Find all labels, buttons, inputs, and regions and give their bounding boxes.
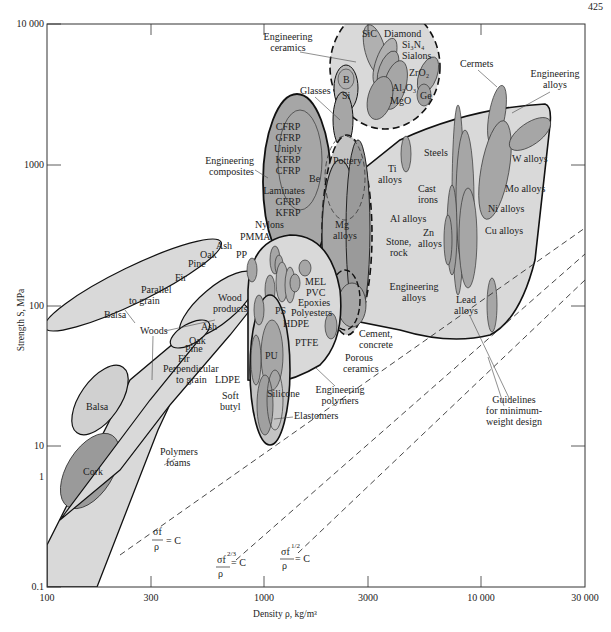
label-eq1-rhs: = C	[166, 535, 181, 546]
x-tick-100: 100	[40, 592, 55, 603]
label-eng-ceramics-2: ceramics	[270, 42, 306, 53]
ti-alloys-bubble	[401, 136, 411, 172]
pp-bubble	[247, 258, 257, 282]
label-eq1-den: ρ	[154, 541, 159, 552]
label-be: Be	[309, 173, 321, 184]
label-eq3-rhs: = C	[295, 553, 310, 564]
ldpe-bubble	[251, 335, 261, 385]
label-eng-ceramics-1: Engineering	[264, 31, 313, 42]
label-wood-products-2: products	[213, 303, 248, 314]
label-soft-butyl-1: Soft	[222, 390, 239, 401]
label-cast-irons-2: irons	[418, 194, 438, 205]
label-balsa-perp: Balsa	[86, 401, 109, 412]
label-zn-alloys-1: Zn	[423, 227, 434, 238]
label-pu: PU	[265, 350, 279, 361]
label-diamond: Diamond	[384, 28, 421, 39]
label-cement-1: Cement,	[359, 328, 393, 339]
label-guidelines-2: for minimum-	[486, 405, 542, 416]
label-guidelines-1: Guidelines	[492, 394, 535, 405]
label-wood-ash: Ash	[216, 240, 232, 251]
label-cast-irons-1: Cast	[418, 183, 436, 194]
label-mg-alloys-1: Mg	[335, 219, 349, 230]
label-eng-composites-1: Engineering	[205, 155, 254, 166]
label-eng-composites-2: composites	[209, 166, 254, 177]
label-cork: Cork	[83, 466, 103, 477]
label-stone-2: rock	[390, 247, 408, 258]
label-parallel-2: to grain	[129, 295, 160, 306]
label-polymer-foams-1: Polymers	[160, 446, 198, 457]
label-mel: MEL	[305, 276, 326, 287]
x-tick-3000: 3000	[358, 592, 378, 603]
label-ldpe: LDPE	[215, 374, 240, 385]
label-cfrp: CFRP	[276, 121, 301, 132]
x-tick-1000: 1000	[254, 592, 274, 603]
label-ptfe: PTFE	[295, 337, 318, 348]
label-pottery: Pottery	[333, 155, 362, 166]
label-gfrp: GFRP	[275, 132, 300, 143]
page-number: 425	[588, 1, 603, 12]
label-si: Si	[342, 90, 351, 101]
label-perpendicular-1: Perpendicular	[163, 363, 219, 374]
label-silicone: Silicone	[267, 388, 300, 399]
hdpe-bubble	[254, 295, 264, 325]
y-tick-10: 10	[34, 440, 44, 451]
y-tick-10000: 10 000	[17, 18, 45, 29]
label-eq3-den: ρ	[282, 560, 287, 571]
label-ge: Ge	[420, 90, 432, 101]
label-ps: PS	[275, 305, 286, 316]
label-pmma: PMMA	[240, 231, 271, 242]
label-wood-fir: Fir	[175, 272, 187, 283]
label-eng-alloys-mid-2: alloys	[402, 292, 426, 303]
y-tick-0-1: 0.1	[32, 581, 45, 592]
label-nylons: Nylons	[255, 219, 284, 230]
label-uniply: Uniply	[274, 143, 302, 154]
label-mg-alloys-2: alloys	[333, 230, 357, 241]
zn-alloys-bubble	[444, 215, 452, 265]
label-laminates-kfrp: KFRP	[275, 207, 300, 218]
y-tick-1000: 1000	[24, 159, 44, 170]
label-w-alloys: W alloys	[512, 153, 548, 164]
label-hdpe: HDPE	[283, 318, 309, 329]
label-cfrp-2: CFRP	[276, 165, 301, 176]
label-eng-alloys-top-1: Engineering	[531, 68, 580, 79]
mel-bubble	[299, 260, 311, 276]
label-eq3-num: σf	[281, 546, 290, 557]
x-tick-30000: 30 000	[571, 592, 599, 603]
cu-alloys-bubble	[459, 188, 477, 288]
cement-bubble	[338, 283, 366, 327]
label-glasses: Glasses	[300, 85, 331, 96]
label-wood-pine: Pine	[188, 258, 206, 269]
label-sic: SiC	[362, 28, 377, 39]
label-laminates-gfrp: GFRP	[275, 196, 300, 207]
label-ti-alloys-2: alloys	[378, 174, 402, 185]
label-guidelines-3: weight design	[486, 416, 542, 427]
label-eq3-exp: 1/2	[291, 542, 300, 550]
label-al-alloys: Al alloys	[390, 213, 426, 224]
label-ti-alloys-1: Ti	[388, 163, 397, 174]
label-cu-alloys: Cu alloys	[485, 225, 523, 236]
label-sialons: Sialons	[402, 50, 432, 61]
label-cermets: Cermets	[460, 58, 493, 69]
label-eq2-den: ρ	[218, 568, 223, 579]
label-eng-polymers-1: Engineering	[316, 384, 365, 395]
lead-alloys-bubble	[487, 278, 497, 332]
label-eq2-rhs: = C	[231, 557, 246, 568]
label-mgo: MgO	[390, 95, 411, 106]
polyesters-bubble	[290, 274, 300, 292]
label-si3n4: Si₃N₄	[402, 39, 425, 50]
label-soft-butyl-2: butyl	[220, 401, 241, 412]
label-wood-products-1: Wood	[218, 292, 242, 303]
label-zro2: ZrO₂	[409, 67, 429, 78]
label-eng-alloys-top-2: alloys	[543, 79, 567, 90]
label-pp: PP	[236, 249, 248, 260]
y-tick-1: 1	[39, 471, 44, 482]
label-eq1-num: σf	[153, 526, 162, 537]
x-tick-10000: 10 000	[467, 592, 495, 603]
label-stone-1: Stone,	[386, 236, 411, 247]
label-elastomers: Elastomers	[294, 410, 339, 421]
label-parallel-1: Parallel	[141, 284, 172, 295]
label-cement-2: concrete	[359, 339, 393, 350]
y-tick-100: 100	[29, 300, 44, 311]
label-woods: Woods	[140, 325, 168, 336]
label-polyesters: Polyesters	[291, 307, 332, 318]
